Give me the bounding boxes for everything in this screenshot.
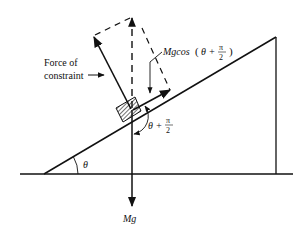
dashed-projection-left xyxy=(95,17,132,35)
weight-label: Mg xyxy=(122,213,136,224)
dashed-projection-right xyxy=(142,28,170,90)
theta-label: θ xyxy=(83,159,88,170)
component-two: 2 xyxy=(219,53,223,62)
incline-surface xyxy=(44,37,276,174)
constraint-label-line2: constraint xyxy=(44,70,84,81)
component-paren-open: ( xyxy=(195,45,199,58)
component-label: Mgcos xyxy=(162,46,190,57)
component-pi: π xyxy=(219,43,223,52)
component-paren-close: ) xyxy=(229,45,233,58)
angle-sum-two: 2 xyxy=(166,126,170,135)
incline-component-arrow xyxy=(133,90,170,110)
theta-arc xyxy=(74,157,79,174)
constraint-label-line1: Force of xyxy=(44,57,78,68)
angle-sum-pi: π xyxy=(166,116,170,125)
angle-sum-theta: θ + xyxy=(148,120,162,131)
component-theta: θ + xyxy=(201,46,215,57)
constraint-force-arrow xyxy=(94,37,131,109)
inclined-plane-diagram: θ Force of constraint Mgcos ( θ + π 2 ) … xyxy=(0,0,305,236)
